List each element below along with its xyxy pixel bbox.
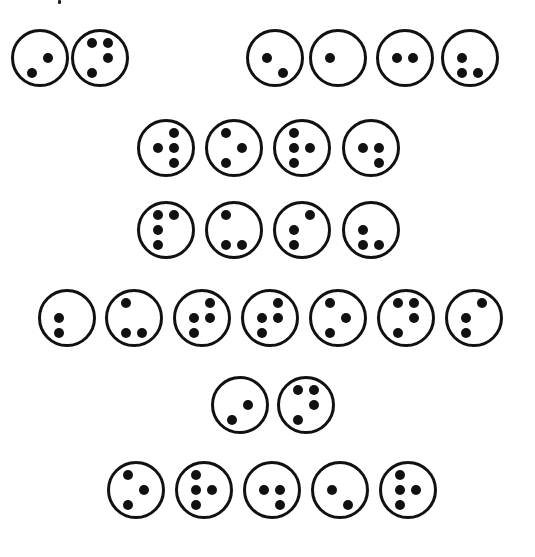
braille-cell [205, 201, 263, 259]
braille-dot-3 [227, 415, 237, 425]
braille-dot-2 [325, 53, 335, 63]
braille-dot-5 [411, 485, 421, 495]
braille-dot-3 [289, 240, 299, 250]
braille-cell [105, 289, 163, 347]
braille-dot-6 [169, 158, 179, 168]
braille-dot-6 [137, 328, 147, 338]
braille-dot-3 [221, 240, 231, 250]
braille-dot-5 [408, 53, 418, 63]
braille-cell [379, 461, 437, 519]
braille-dot-1 [289, 128, 299, 138]
braille-cell [71, 29, 129, 87]
braille-dot-1 [395, 470, 405, 480]
braille-dot-6 [278, 68, 288, 78]
braille-cell [175, 461, 233, 519]
braille-dot-4 [205, 298, 215, 308]
braille-dot-4 [477, 298, 487, 308]
braille-dot-2 [327, 485, 337, 495]
stray-mark [58, 0, 61, 4]
braille-cell [137, 201, 195, 259]
braille-dot-5 [409, 313, 419, 323]
braille-dot-3 [121, 328, 131, 338]
braille-dot-5 [273, 313, 283, 323]
braille-dot-5 [305, 143, 315, 153]
braille-cell [441, 29, 499, 87]
braille-dot-2 [54, 313, 64, 323]
braille-dot-5 [275, 485, 285, 495]
braille-dot-3 [27, 68, 37, 78]
braille-cell [38, 289, 96, 347]
braille-dot-2 [457, 53, 467, 63]
braille-cell [243, 461, 301, 519]
braille-dot-1 [221, 210, 231, 220]
braille-dot-6 [374, 158, 384, 168]
braille-dot-6 [275, 500, 285, 510]
braille-cell [205, 119, 263, 177]
braille-dot-3 [87, 68, 97, 78]
braille-cell [376, 29, 434, 87]
braille-dot-3 [54, 328, 64, 338]
braille-cell [277, 376, 335, 434]
braille-dot-5 [341, 313, 351, 323]
braille-dot-4 [409, 298, 419, 308]
braille-dot-2 [153, 143, 163, 153]
braille-dot-2 [257, 313, 267, 323]
braille-dot-1 [393, 298, 403, 308]
braille-dot-1 [121, 298, 131, 308]
braille-dot-2 [289, 143, 299, 153]
braille-dot-5 [103, 53, 113, 63]
braille-cell [211, 376, 269, 434]
braille-cell [107, 461, 165, 519]
braille-dot-3 [461, 328, 471, 338]
braille-cell [445, 289, 503, 347]
braille-dot-6 [343, 500, 353, 510]
braille-cell [137, 119, 195, 177]
braille-cell [342, 119, 400, 177]
braille-dot-2 [262, 53, 272, 63]
braille-dot-5 [374, 143, 384, 153]
braille-dot-3 [293, 415, 303, 425]
braille-dot-3 [395, 500, 405, 510]
braille-dot-2 [358, 225, 368, 235]
braille-dot-1 [325, 298, 335, 308]
braille-dot-1 [293, 385, 303, 395]
braille-dot-2 [395, 485, 405, 495]
braille-dot-3 [457, 68, 467, 78]
braille-dot-5 [139, 485, 149, 495]
braille-cell [311, 461, 369, 519]
braille-dot-6 [473, 68, 483, 78]
braille-dot-3 [123, 500, 133, 510]
braille-dot-4 [273, 298, 283, 308]
braille-dot-3 [393, 328, 403, 338]
braille-cell [273, 119, 331, 177]
braille-dot-5 [169, 143, 179, 153]
braille-dot-3 [189, 328, 199, 338]
braille-dot-3 [221, 158, 231, 168]
braille-dot-2 [289, 225, 299, 235]
braille-dot-1 [221, 128, 231, 138]
braille-dot-2 [189, 313, 199, 323]
braille-dot-2 [461, 313, 471, 323]
braille-dot-5 [207, 485, 217, 495]
braille-dot-1 [123, 470, 133, 480]
braille-dot-3 [325, 328, 335, 338]
braille-dot-3 [191, 500, 201, 510]
braille-cell [377, 289, 435, 347]
braille-dot-3 [257, 328, 267, 338]
braille-dot-2 [259, 485, 269, 495]
braille-dot-4 [169, 210, 179, 220]
braille-dot-5 [237, 143, 247, 153]
braille-dot-4 [103, 38, 113, 48]
braille-cell [273, 201, 331, 259]
braille-dot-3 [153, 240, 163, 250]
braille-dot-5 [309, 400, 319, 410]
braille-dot-1 [87, 38, 97, 48]
braille-cell [342, 201, 400, 259]
braille-dot-3 [358, 240, 368, 250]
braille-dot-4 [309, 385, 319, 395]
braille-dot-2 [153, 225, 163, 235]
braille-dot-2 [191, 485, 201, 495]
braille-cell [309, 289, 367, 347]
braille-dot-6 [237, 240, 247, 250]
braille-cell [309, 29, 367, 87]
